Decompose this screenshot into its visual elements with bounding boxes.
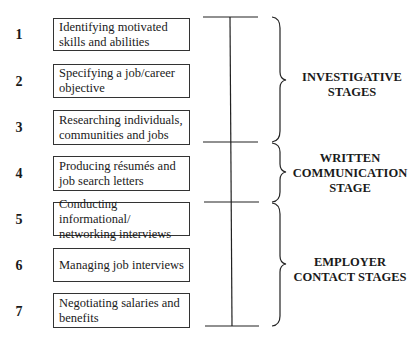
stage-label-employer-contact: EMPLOYER CONTACT STAGES [290,255,408,285]
stage-label-written-communication: WRITTEN COMMUNICATION STAGE [290,151,408,196]
stage-label-investigative: INVESTIGATIVE STAGES [292,70,408,100]
